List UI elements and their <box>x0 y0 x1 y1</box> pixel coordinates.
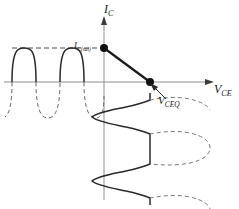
voltage-waveform-dashed-lobe-1 <box>150 131 210 165</box>
figure-canvas <box>0 0 239 209</box>
voltage-waveform-solid-lobes <box>92 93 150 205</box>
load-line-figure: IC VCE IC(sat) VCEQ <box>0 0 239 209</box>
current-waveform-dashed-trough-1 <box>36 82 60 118</box>
vertical-axis-label: IC <box>104 3 113 19</box>
current-waveform-dashed-trough-0 <box>5 82 12 117</box>
horizontal-axis-arrowhead <box>205 79 214 85</box>
current-waveform-solid-hump-1 <box>12 48 36 82</box>
saturation-current-label: IC(sat) <box>74 41 91 52</box>
axis-lines <box>4 16 214 200</box>
horizontal-axis-label: VCE <box>214 83 232 99</box>
voltage-waveform-dashed-lobe-2 <box>150 195 210 209</box>
quiescent-voltage-label: VCEQ <box>158 95 180 109</box>
saturation-point-dot <box>100 44 108 52</box>
dc-load-line <box>104 48 150 82</box>
current-waveform-solid-hump-2 <box>60 48 84 82</box>
